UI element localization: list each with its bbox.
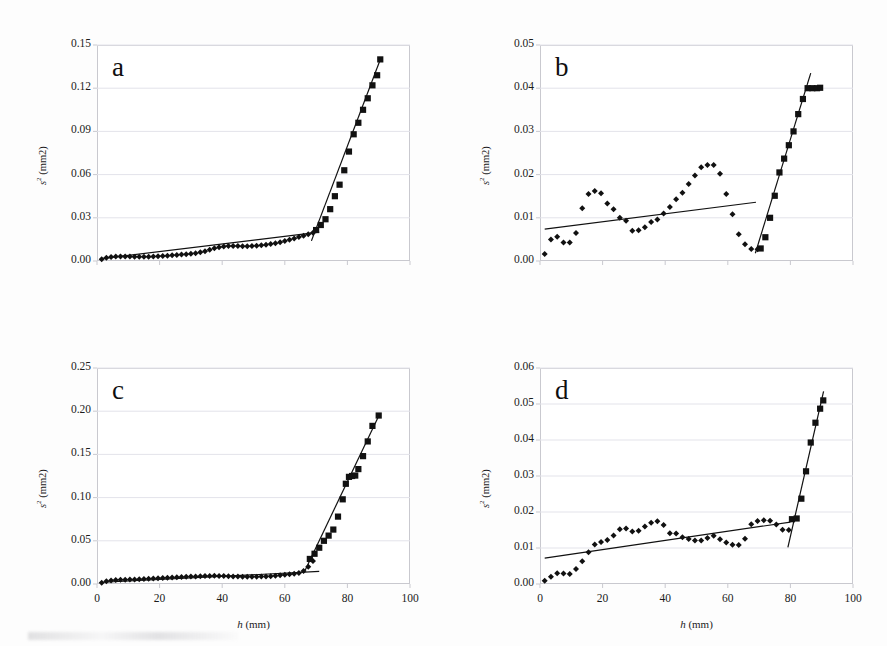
data-point: [108, 254, 114, 260]
x-tick-label: 100: [828, 592, 878, 604]
data-point: [586, 549, 592, 555]
data-point: [673, 196, 679, 202]
data-point: [343, 481, 349, 487]
data-point: [346, 148, 352, 154]
data-point: [103, 578, 109, 584]
data-point: [560, 571, 566, 577]
y-tick-label: 0.01: [492, 540, 534, 552]
y-tick-label: 0.15: [49, 37, 91, 49]
panel-c: 0.000.050.100.150.200.25020406080100h (m…: [0, 323, 443, 646]
data-point: [211, 245, 217, 251]
data-point: [667, 204, 673, 210]
data-point: [617, 526, 623, 532]
data-point: [99, 256, 105, 262]
data-point: [736, 542, 742, 548]
data-point: [573, 230, 579, 236]
data-point: [636, 528, 642, 534]
data-point: [336, 182, 342, 188]
data-point: [604, 537, 610, 543]
data-point: [692, 172, 698, 178]
data-point: [773, 522, 779, 528]
data-point: [174, 252, 180, 258]
data-point: [197, 249, 203, 255]
x-axis-label: h (mm): [540, 618, 853, 630]
data-point: [692, 537, 698, 543]
y-tick-label: 0.10: [49, 490, 91, 502]
data-point: [723, 191, 729, 197]
data-point: [542, 251, 548, 257]
data-point: [322, 216, 328, 222]
data-point: [780, 527, 786, 533]
data-point: [341, 167, 347, 173]
x-tick-label: 60: [703, 592, 753, 604]
data-point: [786, 142, 792, 148]
data-point: [790, 128, 796, 134]
x-tick-label: 40: [640, 592, 690, 604]
y-tick-label: 0.04: [492, 432, 534, 444]
data-point: [272, 240, 278, 246]
data-point: [611, 206, 617, 212]
data-point: [316, 545, 322, 551]
x-axis-label: h (mm): [97, 618, 410, 630]
data-point: [263, 242, 269, 248]
x-tick-label: 0: [72, 592, 122, 604]
data-point: [592, 541, 598, 547]
data-point: [673, 531, 679, 537]
data-point: [579, 205, 585, 211]
y-tick-label: 0.12: [49, 80, 91, 92]
y-tick-label: 0.03: [49, 210, 91, 222]
y-tick-label: 0.04: [492, 80, 534, 92]
data-point: [812, 420, 818, 426]
data-point: [817, 85, 823, 91]
data-point: [794, 515, 800, 521]
data-point: [817, 406, 823, 412]
panel-label-c: c: [112, 375, 124, 406]
y-axis-label: s2 (mm2): [478, 469, 491, 508]
data-point: [554, 570, 560, 576]
data-point: [642, 523, 648, 529]
data-point: [742, 241, 748, 247]
y-tick-label: 0.06: [49, 167, 91, 179]
data-point: [360, 453, 366, 459]
y-tick-label: 0.03: [492, 123, 534, 135]
y-tick-label: 0.02: [492, 504, 534, 516]
y-tick-label: 0.02: [492, 167, 534, 179]
data-point: [661, 210, 667, 216]
y-axis-label: s2 (mm2): [478, 146, 491, 185]
data-point: [183, 251, 189, 257]
data-point: [723, 540, 729, 546]
data-point: [355, 120, 361, 126]
data-point: [798, 496, 804, 502]
y-tick-label: 0.00: [49, 576, 91, 588]
fit-line-shallow-fit: [545, 202, 756, 229]
data-point: [711, 162, 717, 168]
x-tick-label: 80: [322, 592, 372, 604]
panel-a: 0.000.030.060.090.120.15s2 (mm2)a: [0, 0, 443, 323]
data-point: [355, 466, 361, 472]
scan-artifact: [28, 632, 238, 640]
data-point: [258, 242, 264, 248]
data-point: [326, 533, 332, 539]
data-point: [654, 518, 660, 524]
x-tick-label: 80: [765, 592, 815, 604]
data-point: [776, 169, 782, 175]
data-point: [679, 534, 685, 540]
data-point: [286, 571, 292, 577]
data-point: [758, 245, 764, 251]
y-tick-label: 0.09: [49, 123, 91, 135]
data-point: [376, 412, 382, 418]
data-point: [667, 530, 673, 536]
data-point: [573, 566, 579, 572]
y-tick-label: 0.25: [49, 360, 91, 372]
data-point: [748, 246, 754, 252]
data-point: [193, 250, 199, 256]
data-point: [717, 536, 723, 542]
data-point: [729, 542, 735, 548]
x-tick-label: 60: [260, 592, 310, 604]
y-tick-label: 0.15: [49, 446, 91, 458]
data-point: [761, 517, 767, 523]
data-point: [560, 239, 566, 245]
data-point: [648, 219, 654, 225]
data-point: [729, 211, 735, 217]
y-tick-label: 0.06: [492, 360, 534, 372]
